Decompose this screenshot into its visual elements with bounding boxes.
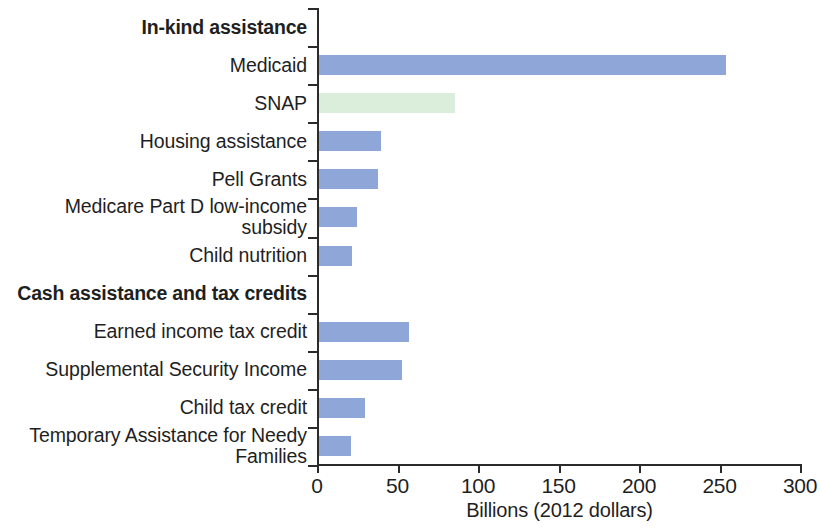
y-axis-tick	[308, 275, 317, 277]
y-axis-tick	[308, 84, 317, 86]
bar	[317, 398, 365, 418]
y-axis-line	[317, 8, 319, 465]
y-axis-tick	[308, 389, 317, 391]
y-axis-tick	[308, 198, 317, 200]
y-axis-tick	[308, 122, 317, 124]
y-axis-tick	[308, 351, 317, 353]
bar-cell	[317, 84, 820, 122]
x-axis-tick	[800, 464, 802, 473]
y-axis-tick	[308, 8, 317, 10]
category-label: SNAP	[0, 93, 317, 114]
bar-cell	[317, 122, 820, 160]
y-axis-tick	[308, 46, 317, 48]
category-row: Earned income tax credit	[0, 313, 820, 351]
bar-cell	[317, 427, 820, 465]
category-row: Medicaid	[0, 46, 820, 84]
category-row: Temporary Assistance for Needy Families	[0, 427, 820, 465]
y-axis-tick	[308, 427, 317, 429]
category-label: Medicare Part D low-income subsidy	[0, 196, 317, 238]
bar-cell	[317, 46, 820, 84]
x-axis-title: Billions (2012 dollars)	[317, 498, 802, 522]
x-axis-tick-label: 150	[541, 474, 575, 498]
bar	[317, 436, 351, 456]
bar-cell	[317, 160, 820, 198]
group-header-label: Cash assistance and tax credits	[0, 283, 317, 304]
x-axis-tick	[559, 464, 561, 473]
x-axis-tick	[720, 464, 722, 473]
y-axis-tick	[308, 237, 317, 239]
bar-cell	[317, 275, 820, 313]
bar	[317, 322, 409, 342]
y-axis-tick	[308, 160, 317, 162]
bar	[317, 169, 378, 189]
bar-cell	[317, 198, 820, 236]
x-axis-tick	[317, 464, 319, 473]
bar	[317, 360, 402, 380]
category-row: SNAP	[0, 84, 820, 122]
x-axis-tick-label: 0	[311, 474, 322, 498]
x-axis-tick-label: 300	[783, 474, 817, 498]
category-label: Earned income tax credit	[0, 321, 317, 342]
category-group-header-row: Cash assistance and tax credits	[0, 275, 820, 313]
bar-cell	[317, 8, 820, 46]
x-axis-tick	[398, 464, 400, 473]
category-row: Child tax credit	[0, 389, 820, 427]
x-axis-tick	[478, 464, 480, 473]
category-label: Child tax credit	[0, 397, 317, 418]
x-axis-tick-label: 200	[622, 474, 656, 498]
bar-cell	[317, 313, 820, 351]
group-header-label: In-kind assistance	[0, 17, 317, 38]
x-axis-tick	[639, 464, 641, 473]
y-axis-tick	[308, 313, 317, 315]
category-group-header-row: In-kind assistance	[0, 8, 820, 46]
x-axis-tick-label: 50	[386, 474, 409, 498]
category-label: Pell Grants	[0, 169, 317, 190]
bar	[317, 207, 357, 227]
bar	[317, 93, 455, 113]
category-label: Medicaid	[0, 55, 317, 76]
category-label: Child nutrition	[0, 245, 317, 266]
category-row: Supplemental Security Income	[0, 351, 820, 389]
bar-chart: In-kind assistanceMedicaidSNAPHousing as…	[0, 0, 820, 528]
bar	[317, 246, 352, 266]
category-row: Pell Grants	[0, 160, 820, 198]
category-label: Temporary Assistance for Needy Families	[0, 425, 317, 467]
bar	[317, 55, 726, 75]
bar-cell	[317, 351, 820, 389]
category-label: Housing assistance	[0, 131, 317, 152]
bar	[317, 131, 381, 151]
plot-area: In-kind assistanceMedicaidSNAPHousing as…	[0, 0, 820, 470]
bar-cell	[317, 237, 820, 275]
category-row: Medicare Part D low-income subsidy	[0, 198, 820, 236]
y-axis-tick	[308, 465, 317, 467]
category-label: Supplemental Security Income	[0, 359, 317, 380]
category-row: Housing assistance	[0, 122, 820, 160]
x-axis-tick-label: 100	[461, 474, 495, 498]
category-row: Child nutrition	[0, 237, 820, 275]
x-axis-tick-label: 250	[702, 474, 736, 498]
bar-cell	[317, 389, 820, 427]
